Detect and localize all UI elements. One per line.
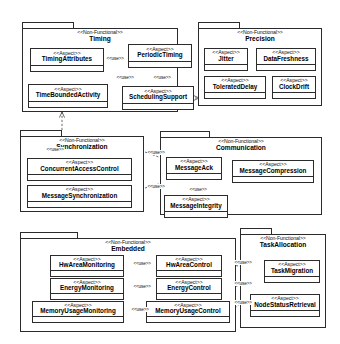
aspect-energy-control[interactable]: <<Aspect>> EnergyControl [156,278,222,300]
aspect-label: HwAreaMonitoring [59,262,115,269]
aspect-name-compartment: <<Aspect>> TimeBoundedActivity [29,85,107,102]
aspect-empty-compartment [157,294,221,299]
aspect-hw-area-monitoring[interactable]: <<Aspect>> HwAreaMonitoring [50,255,124,277]
package-communication[interactable]: <<Non-Functional>> Communication <<Aspec… [160,131,322,215]
aspect-label: SchedulingSupport [129,94,187,101]
package-name: Communication [160,145,322,152]
aspect-memory-usage-monitoring[interactable]: <<Aspect>> MemoryUsageMonitoring [32,301,124,323]
aspect-tolerated-delay[interactable]: <<Aspect>> ToleratedDelay [204,76,266,99]
package-header: <<Non-Functional>> TaskAllocation [240,236,326,249]
aspect-name-compartment: <<Aspect>> MessageSynchronization [28,186,131,202]
use-label-concurrentaccesscontrol-messageack: <<use>> [147,150,165,155]
aspect-memory-usage-control[interactable]: <<Aspect>> MemoryUsageControl [146,301,230,323]
aspect-label: NodeStatusRetrieval [254,302,316,309]
use-label-memoryusagemonitoring-memoryusagecontrol: <<use>> [131,307,149,312]
aspect-name-compartment: <<Aspect>> SchedulingSupport [123,87,193,104]
package-precision[interactable]: <<Non-Functional>> Precision <<Aspect>> … [198,22,322,106]
aspect-label: PeriodicTiming [137,52,182,59]
package-name: Timing [22,36,178,43]
package-timing[interactable]: <<Non-Functional>> Timing <<Aspect>> Tim… [22,22,178,112]
aspect-task-migration[interactable]: <<Aspect>> TaskMigration [264,260,320,283]
aspect-empty-compartment [257,65,315,70]
aspect-name-compartment: <<Aspect>> Jitter [205,49,247,65]
aspect-name-compartment: <<Aspect>> MessageAck [167,158,221,174]
aspect-name-compartment: <<Aspect>> MessageCompression [233,161,313,177]
aspect-name-compartment: <<Aspect>> PeriodicTiming [129,45,191,62]
aspect-name-compartment: <<Aspect>> MessageIntegrity [165,196,227,212]
aspect-node-status-retrieval[interactable]: <<Aspect>> NodeStatusRetrieval [250,294,320,317]
aspect-label: TimeBoundedActivity [36,92,101,99]
aspect-name-compartment: <<Aspect>> ClockDrift [273,77,315,93]
aspect-message-ack[interactable]: <<Aspect>> MessageAck [166,157,222,180]
use-label-messagesynchronization-messageack: <<use>> [147,184,165,189]
package-header: <<Non-Functional>> Timing [22,30,178,43]
aspect-name-compartment: <<Aspect>> EnergyControl [157,279,221,294]
aspect-empty-compartment [51,294,123,299]
aspect-empty-compartment [28,175,131,180]
aspect-label: HwAreaControl [166,262,212,269]
aspect-name-compartment: <<Aspect>> HwAreaMonitoring [51,256,123,271]
aspect-label: TaskMigration [271,268,313,275]
aspect-concurrent-access-control[interactable]: <<Aspect>> ConcurrentAccessControl [27,158,132,181]
aspect-label: ConcurrentAccessControl [40,166,118,173]
package-name: Precision [198,36,322,43]
aspect-energy-monitoring[interactable]: <<Aspect>> EnergyMonitoring [50,278,124,300]
use-label-periodictiming-schedulingsupport: <<use>> [153,75,171,80]
aspect-label: EnergyControl [167,285,211,292]
package-header: <<Non-Functional>> Synchronization [20,138,144,151]
aspect-empty-compartment [273,93,315,98]
aspect-clock-drift[interactable]: <<Aspect>> ClockDrift [272,76,316,99]
aspect-data-freshness[interactable]: <<Aspect>> DataFreshness [256,48,316,71]
aspect-hw-area-control[interactable]: <<Aspect>> HwAreaControl [156,255,222,277]
aspect-empty-compartment [157,271,221,276]
package-embedded[interactable]: <<Non-Functional>> Embedded <<Aspect>> H… [20,232,236,332]
aspect-message-compression[interactable]: <<Aspect>> MessageCompression [232,160,314,183]
aspect-name-compartment: <<Aspect>> ConcurrentAccessControl [28,159,131,175]
use-label-hwareacontrol-taskmigration: <<use>> [234,260,252,265]
aspect-empty-compartment [28,202,131,207]
package-task-allocation[interactable]: <<Non-Functional>> TaskAllocation <<Aspe… [240,228,326,328]
aspect-label: DataFreshness [263,56,308,63]
aspect-label: MemoryUsageMonitoring [40,308,116,315]
aspect-name-compartment: <<Aspect>> HwAreaControl [157,256,221,271]
aspect-timing-attributes[interactable]: <<Aspect>> TimingAttributes [30,48,104,72]
aspect-empty-compartment [251,311,319,316]
use-label-memoryusagecontrol-taskmigration: <<use>> [234,300,252,305]
aspect-message-synchronization[interactable]: <<Aspect>> MessageSynchronization [27,185,132,208]
aspect-label: MessageIntegrity [170,203,221,210]
use-label-timingattributes-schedulingsupport: <<use>> [116,75,134,80]
aspect-name-compartment: <<Aspect>> ToleratedDelay [205,77,265,93]
aspect-empty-compartment [165,212,227,217]
aspect-empty-compartment [205,93,265,98]
aspect-empty-compartment [167,174,221,179]
aspect-label: Jitter [218,56,233,63]
aspect-name-compartment: <<Aspect>> MemoryUsageMonitoring [33,302,123,317]
aspect-scheduling-support[interactable]: <<Aspect>> SchedulingSupport [122,86,194,110]
use-label-hwareamonitoring-hwareacontrol: <<use>> [133,261,151,266]
package-header: <<Non-Functional>> Communication [160,139,322,152]
aspect-label: TimingAttributes [42,56,92,63]
aspect-name-compartment: <<Aspect>> NodeStatusRetrieval [251,295,319,311]
package-header: <<Non-Functional>> Embedded [20,240,236,253]
aspect-name-compartment: <<Aspect>> DataFreshness [257,49,315,65]
aspect-label: MessageCompression [240,168,307,175]
aspect-label: MessageAck [175,165,213,172]
aspect-empty-compartment [123,104,193,109]
use-label-energycontrol-energymonitoring: <<use>> [133,284,151,289]
uml-diagram-canvas: <<Non-Functional>> Timing <<Aspect>> Tim… [0,0,340,344]
package-name: TaskAllocation [240,242,326,249]
aspect-empty-compartment [31,66,103,71]
package-name: Synchronization [20,144,144,151]
aspect-label: EnergyMonitoring [60,285,114,292]
aspect-name-compartment: <<Aspect>> EnergyMonitoring [51,279,123,294]
package-synchronization[interactable]: <<Non-Functional>> Synchronization <<Asp… [20,130,144,212]
aspect-jitter[interactable]: <<Aspect>> Jitter [204,48,248,71]
aspect-empty-compartment [205,65,247,70]
aspect-periodic-timing[interactable]: <<Aspect>> PeriodicTiming [128,44,192,68]
aspect-empty-compartment [29,102,107,107]
aspect-time-bounded-activity[interactable]: <<Aspect>> TimeBoundedActivity [28,84,108,108]
aspect-name-compartment: <<Aspect>> TaskMigration [265,261,319,277]
aspect-empty-compartment [33,317,123,322]
aspect-message-integrity[interactable]: <<Aspect>> MessageIntegrity [164,195,228,218]
aspect-empty-compartment [129,62,191,67]
